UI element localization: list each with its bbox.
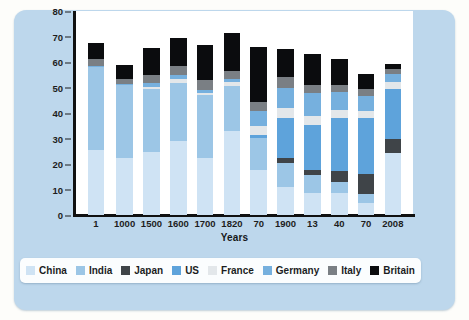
legend-item-us[interactable]: US: [172, 265, 199, 276]
bar-segment-china: [250, 170, 267, 215]
legend-swatch-icon: [26, 266, 35, 275]
legend-item-china[interactable]: China: [26, 265, 67, 276]
legend-label: France: [221, 265, 254, 276]
bar-segment-france: [277, 108, 294, 118]
y-tick-60: 60: [52, 57, 73, 68]
bar-1820: [224, 33, 241, 215]
bar-70: [358, 74, 375, 215]
bars-container: [75, 11, 413, 215]
legend-swatch-icon: [208, 266, 217, 275]
y-tick-20: 20: [52, 159, 73, 170]
bar-segment-italy: [143, 75, 160, 84]
bar-segment-india: [358, 194, 375, 203]
legend-swatch-icon: [263, 266, 272, 275]
bar-segment-us: [304, 125, 321, 170]
bar-1700: [197, 45, 214, 215]
bar-segment-italy: [224, 71, 241, 79]
bar-segment-italy: [170, 66, 187, 75]
bar-40: [331, 59, 348, 215]
bar-segment-germany: [170, 75, 187, 79]
legend-swatch-icon: [172, 266, 181, 275]
y-tick-50: 50: [52, 82, 73, 93]
bar-segment-germany: [304, 93, 321, 116]
bar-segment-china: [358, 203, 375, 215]
legend-item-france[interactable]: France: [208, 265, 254, 276]
x-label-1820: 1820: [221, 218, 242, 229]
bar-segment-us: [277, 118, 294, 158]
bar-2008: [385, 64, 402, 215]
x-label-1000: 1000: [114, 218, 135, 229]
x-label-1700: 1700: [195, 218, 216, 229]
bar-segment-italy: [358, 89, 375, 96]
bar-segment-britain: [143, 48, 160, 75]
bar-70: [250, 47, 267, 215]
bar-segment-china: [385, 153, 402, 215]
y-tick-40: 40: [52, 108, 73, 119]
bar-segment-italy: [331, 85, 348, 93]
x-label-1500: 1500: [141, 218, 162, 229]
y-tick-30: 30: [52, 133, 73, 144]
bar-segment-italy: [277, 77, 294, 87]
bar-segment-italy: [88, 59, 105, 65]
legend-label: Germany: [276, 265, 319, 276]
bar-segment-italy: [304, 85, 321, 93]
bar-segment-britain: [358, 74, 375, 89]
bar-segment-japan: [331, 171, 348, 181]
bar-segment-china: [331, 193, 348, 215]
legend-item-italy[interactable]: Italy: [328, 265, 361, 276]
bar-segment-france: [224, 82, 241, 86]
bar-segment-us: [250, 135, 267, 138]
bar-segment-france: [358, 111, 375, 117]
bar-segment-china: [170, 141, 187, 215]
x-axis-title: Years: [0, 232, 469, 243]
bar-segment-france: [250, 126, 267, 135]
legend-label: Britain: [383, 265, 415, 276]
bar-segment-germany: [116, 84, 133, 85]
bar-1900: [277, 49, 294, 215]
bar-segment-india: [116, 85, 133, 158]
bar-segment-britain: [116, 65, 133, 79]
bar-segment-france: [385, 82, 402, 89]
bar-segment-china: [88, 150, 105, 215]
y-tick-80: 80: [52, 6, 73, 17]
bar-segment-us: [331, 118, 348, 172]
bar-segment-japan: [385, 139, 402, 153]
bar-segment-germany: [358, 96, 375, 111]
x-label-2008: 2008: [382, 218, 403, 229]
bar-segment-china: [116, 158, 133, 215]
bar-segment-britain: [304, 54, 321, 86]
bar-segment-germany: [88, 66, 105, 67]
bar-segment-india: [224, 86, 241, 131]
bar-segment-italy: [250, 102, 267, 111]
bar-segment-india: [250, 138, 267, 170]
bar-segment-germany: [385, 74, 402, 82]
legend-item-britain[interactable]: Britain: [370, 265, 415, 276]
bar-segment-britain: [197, 45, 214, 79]
bar-segment-india: [331, 182, 348, 193]
legend-item-germany[interactable]: Germany: [263, 265, 319, 276]
legend-swatch-icon: [370, 266, 379, 275]
bar-segment-italy: [197, 80, 214, 90]
bar-segment-britain: [250, 47, 267, 102]
x-label-1600: 1600: [168, 218, 189, 229]
bar-segment-india: [88, 67, 105, 150]
bar-segment-india: [170, 83, 187, 141]
legend-swatch-icon: [76, 266, 85, 275]
legend-item-india[interactable]: India: [76, 265, 112, 276]
bar-segment-britain: [331, 59, 348, 85]
bar-segment-china: [304, 193, 321, 215]
bar-segment-india: [304, 175, 321, 193]
bar-segment-france: [143, 87, 160, 88]
bar-1600: [170, 38, 187, 215]
legend-label: India: [89, 265, 112, 276]
x-label-13: 13: [307, 218, 318, 229]
legend-label: Italy: [341, 265, 361, 276]
bar-segment-india: [143, 89, 160, 152]
chart-legend: ChinaIndiaJapanUSFranceGermanyItalyBrita…: [20, 258, 421, 283]
bar-segment-britain: [170, 38, 187, 66]
bar-segment-france: [170, 79, 187, 83]
bar-1: [88, 43, 105, 215]
x-label-70: 70: [361, 218, 372, 229]
bar-segment-us: [385, 89, 402, 139]
legend-item-japan[interactable]: Japan: [121, 265, 163, 276]
